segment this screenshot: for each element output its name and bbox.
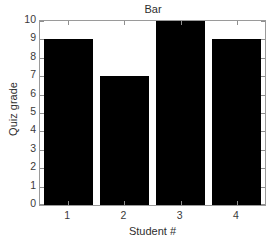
y-axis-tick (40, 204, 44, 205)
y-axis-tick (261, 113, 265, 114)
y-axis-tick (261, 204, 265, 205)
y-axis-tick (40, 39, 44, 40)
x-axis-tick (68, 201, 69, 205)
y-axis-tick-label: 4 (2, 124, 36, 135)
y-axis-tick-labels: 109876543210 (0, 20, 36, 206)
y-axis-tick (261, 39, 265, 40)
y-axis-tick-label: 3 (2, 143, 36, 154)
bars-layer (40, 21, 265, 205)
x-axis-tick (124, 21, 125, 25)
x-axis-tick (124, 201, 125, 205)
y-axis-tick-label: 0 (2, 198, 36, 209)
x-axis-tick-label: 1 (47, 209, 87, 221)
plot-area (39, 20, 266, 206)
y-axis-tick (261, 168, 265, 169)
y-axis-tick (261, 150, 265, 151)
y-axis-tick (261, 21, 265, 22)
y-axis-tick (40, 76, 44, 77)
x-axis-title: Student # (39, 225, 266, 238)
y-axis-tick (261, 95, 265, 96)
y-axis-tick (40, 150, 44, 151)
bar-chart-figure: Bar Quiz grade 109876543210 1234 Student… (0, 0, 280, 243)
chart-title: Bar (39, 3, 267, 16)
y-axis-tick-label: 5 (2, 106, 36, 117)
x-axis-tick-label: 3 (160, 209, 200, 221)
x-axis-tick-labels: 1234 (39, 209, 266, 223)
x-axis-tick (181, 201, 182, 205)
y-axis-tick-label: 1 (2, 180, 36, 191)
bar (44, 39, 93, 205)
y-axis-tick (261, 187, 265, 188)
y-axis-tick-label: 6 (2, 88, 36, 99)
x-axis-tick (68, 21, 69, 25)
y-axis-tick-label: 8 (2, 51, 36, 62)
x-axis-tick (181, 21, 182, 25)
y-axis-tick (261, 76, 265, 77)
bar (100, 76, 149, 205)
y-axis-tick (40, 131, 44, 132)
y-axis-tick (40, 21, 44, 22)
bar (212, 39, 261, 205)
bar (156, 21, 205, 205)
y-axis-tick-label: 9 (2, 32, 36, 43)
y-axis-tick (40, 113, 44, 114)
y-axis-tick (261, 58, 265, 59)
y-axis-tick (261, 131, 265, 132)
x-axis-tick (237, 21, 238, 25)
x-axis-tick (237, 201, 238, 205)
y-axis-tick-label: 7 (2, 69, 36, 80)
y-axis-tick (40, 95, 44, 96)
y-axis-tick-label: 2 (2, 161, 36, 172)
y-axis-tick (40, 187, 44, 188)
y-axis-tick-label: 10 (2, 14, 36, 25)
y-axis-tick (40, 58, 44, 59)
x-axis-tick-label: 4 (216, 209, 256, 221)
x-axis-tick-label: 2 (103, 209, 143, 221)
y-axis-tick (40, 168, 44, 169)
